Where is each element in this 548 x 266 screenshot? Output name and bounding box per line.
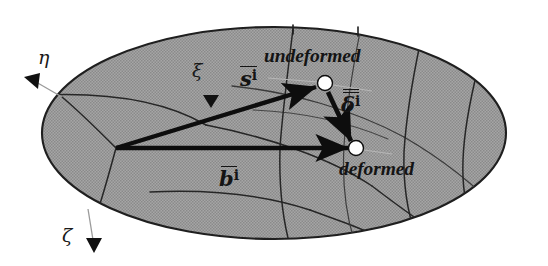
- eta-arrowhead-icon: [24, 73, 40, 89]
- vector-label-b: bi: [219, 166, 239, 189]
- vector-b-letter: b: [219, 166, 234, 191]
- vector-delta-symbol: δi: [341, 94, 360, 115]
- vector-b-symbol: bi: [219, 168, 239, 189]
- vector-delta-prime: i: [355, 93, 360, 109]
- vector-delta-overbar-upper: [343, 89, 359, 90]
- eta-axis-label: η: [38, 48, 49, 67]
- vector-label-s: si: [240, 66, 257, 89]
- vector-b-prime: i: [234, 167, 239, 183]
- node-label-deformed: deformed: [339, 159, 414, 179]
- xi-axis-label: ξ: [192, 61, 202, 80]
- figure-canvas: η ξ ζ undeformed deformed si δi bi: [0, 0, 548, 266]
- zeta-leader-line: [88, 209, 93, 240]
- zeta-axis-label: ζ: [62, 226, 72, 245]
- vector-s-prime: i: [252, 67, 257, 83]
- node-undeformed-marker[interactable]: [318, 76, 333, 91]
- vector-label-delta: δi: [341, 89, 360, 115]
- vector-s-letter: s: [240, 66, 252, 91]
- eta-leader-line: [36, 82, 62, 97]
- node-label-undeformed: undeformed: [264, 46, 361, 66]
- node-deformed-marker[interactable]: [349, 141, 364, 156]
- diagram-svg: [0, 0, 548, 266]
- vector-s-symbol: si: [240, 68, 257, 89]
- vector-delta-letter: δ: [341, 92, 355, 117]
- zeta-arrowhead-icon: [86, 238, 102, 253]
